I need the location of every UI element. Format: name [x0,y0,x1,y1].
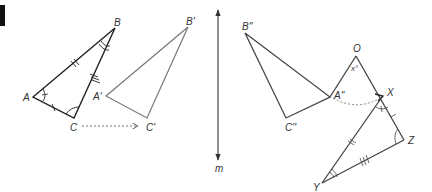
tab-marker [0,5,5,26]
label-y: Y [313,182,321,192]
label-z: Z [407,135,415,146]
label-a-prime: A' [92,91,103,102]
label-b-double-prime: B'' [242,21,254,32]
label-b: B [114,17,121,28]
label-o: O [353,43,361,54]
label-x: X [386,87,394,98]
triangle-abc [33,28,115,118]
label-a: A [22,92,30,103]
triangle-xyz [322,97,404,183]
transformation-diagram: A B C A' B' C' m B'' A'' C'' O x° [0,0,432,192]
label-a-double-prime: A'' [333,90,346,101]
label-angle-x: x° [350,64,359,73]
triangle-a2b2c2 [245,33,330,118]
label-c-double-prime: C'' [285,122,297,133]
label-b-prime: B' [186,16,196,27]
triangle-a1b1c1 [106,27,188,118]
label-c-prime: C' [146,122,156,133]
label-m: m [215,163,223,174]
label-c: C [70,122,78,133]
